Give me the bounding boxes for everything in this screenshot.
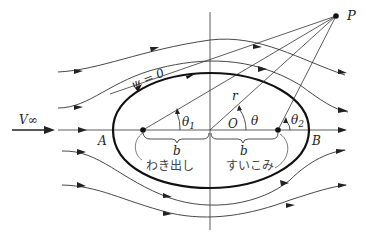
rankine-oval-diagram: P ψ = 0 V∞ A B O r θ θ1 θ2 b b わき出し すいこみ <box>0 0 372 240</box>
label-b-point: B <box>311 134 321 148</box>
label-p: P <box>346 8 356 23</box>
streamline-upper-1 <box>58 39 345 75</box>
label-psi-zero: ψ = 0 <box>129 66 167 92</box>
streamline-lower-1 <box>62 150 345 205</box>
label-a: A <box>97 134 107 148</box>
label-source: わき出し <box>146 159 194 173</box>
theta1-arc <box>177 113 180 130</box>
streamline-lower-2 <box>62 185 346 217</box>
axis-arrow-left <box>78 127 87 133</box>
label-v-infinity: V∞ <box>19 113 38 127</box>
streamline-upper-2 <box>58 61 348 112</box>
theta-arc <box>240 110 246 130</box>
source-leader <box>135 133 143 160</box>
sink-leader <box>275 134 288 168</box>
label-theta: θ <box>251 114 259 128</box>
label-theta2: θ2 <box>291 113 304 129</box>
source-point <box>140 127 146 133</box>
brace-right <box>211 133 278 143</box>
label-b-right: b <box>240 144 248 158</box>
brace-left <box>143 133 209 143</box>
label-origin: O <box>228 117 238 131</box>
axis-arrow-right <box>338 127 347 133</box>
sink-point <box>275 127 281 133</box>
free-stream-arrowhead <box>44 126 55 134</box>
label-theta1: θ1 <box>182 115 195 131</box>
label-sink: すいこみ <box>226 159 274 173</box>
theta2-arc <box>287 122 290 130</box>
point-p <box>333 13 339 19</box>
label-b-left: b <box>173 144 181 158</box>
label-r: r <box>232 89 239 103</box>
